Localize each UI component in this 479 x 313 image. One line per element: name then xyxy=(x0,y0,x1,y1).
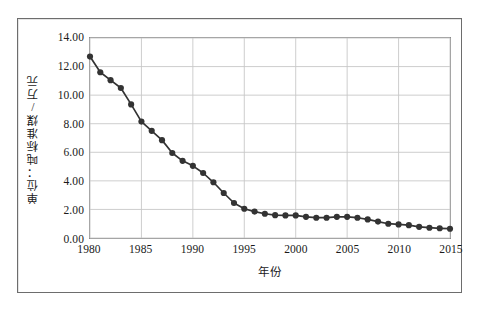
figure-page: 单位：吨标准煤/万元 0.002.004.006.008.0010.0012.0… xyxy=(0,0,479,313)
data-point xyxy=(231,200,237,206)
data-point xyxy=(313,215,319,221)
data-point xyxy=(416,224,422,230)
data-point xyxy=(447,226,453,232)
x-axis-tick-label: 1980 xyxy=(77,243,100,255)
x-axis-tick-label: 1985 xyxy=(129,243,152,255)
x-axis-tick-label: 2015 xyxy=(439,243,462,255)
data-point xyxy=(190,163,196,169)
data-point xyxy=(107,77,113,83)
data-point xyxy=(251,209,257,215)
data-point xyxy=(426,225,432,231)
line-chart: 单位：吨标准煤/万元 0.002.004.006.008.0010.0012.0… xyxy=(18,19,463,294)
data-point xyxy=(179,158,185,164)
data-point xyxy=(323,215,329,221)
data-point xyxy=(159,137,165,143)
data-point xyxy=(385,221,391,227)
y-axis-tick-label: 10.00 xyxy=(58,89,84,101)
y-axis-tick-labels: 0.002.004.006.008.0010.0012.0014.00 xyxy=(32,37,84,239)
data-point xyxy=(241,206,247,212)
data-point xyxy=(303,214,309,220)
data-point xyxy=(354,215,360,221)
data-point xyxy=(437,225,443,231)
x-axis-title: 年份 xyxy=(89,263,451,279)
x-axis-tick-label: 1995 xyxy=(232,243,255,255)
data-point xyxy=(128,101,134,107)
data-point xyxy=(282,212,288,218)
y-axis-tick-label: 14.00 xyxy=(58,31,84,43)
data-point xyxy=(262,211,268,217)
data-point xyxy=(97,69,103,75)
y-axis-tick-label: 2.00 xyxy=(63,204,84,216)
x-axis-tick-labels: 19801985199019952000200520102015 xyxy=(89,243,451,261)
data-point xyxy=(210,179,216,185)
plot-area xyxy=(89,37,451,239)
y-axis-tick-label: 12.00 xyxy=(58,60,84,72)
data-point xyxy=(138,119,144,125)
y-axis-tick-label: 8.00 xyxy=(63,118,84,130)
data-series-energy-intensity xyxy=(90,38,450,238)
data-point xyxy=(334,214,340,220)
y-axis-tick-label: 6.00 xyxy=(63,146,84,158)
x-axis-tick-label: 2000 xyxy=(284,243,307,255)
data-point xyxy=(293,212,299,218)
x-axis-tick-label: 2010 xyxy=(388,243,411,255)
data-point xyxy=(169,150,175,156)
data-point xyxy=(365,216,371,222)
data-point xyxy=(406,222,412,228)
data-point xyxy=(200,170,206,176)
y-axis-tick-label: 4.00 xyxy=(63,175,84,187)
data-point xyxy=(272,212,278,218)
x-axis-tick-label: 1990 xyxy=(181,243,204,255)
data-point xyxy=(375,219,381,225)
data-point xyxy=(118,85,124,91)
data-point xyxy=(149,128,155,134)
data-point xyxy=(221,190,227,196)
x-axis-tick-label: 2005 xyxy=(336,243,359,255)
data-point xyxy=(344,214,350,220)
series-line xyxy=(90,57,450,229)
figure-frame: 单位：吨标准煤/万元 0.002.004.006.008.0010.0012.0… xyxy=(17,18,462,293)
data-point xyxy=(395,221,401,227)
data-point xyxy=(87,54,93,60)
